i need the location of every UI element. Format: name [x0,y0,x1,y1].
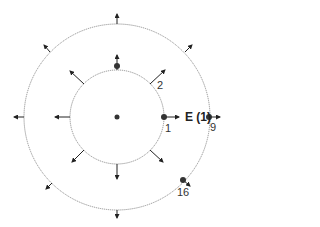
field-label: E (1) [185,111,211,123]
point-1 [161,114,167,120]
point-2-label: 2 [157,80,163,91]
point-16-label: 16 [177,187,189,198]
point-16 [180,177,186,183]
center-point [115,115,120,120]
point-1-label: 1 [165,123,171,134]
point-9-label: 9 [210,122,216,133]
point-top [114,63,120,69]
